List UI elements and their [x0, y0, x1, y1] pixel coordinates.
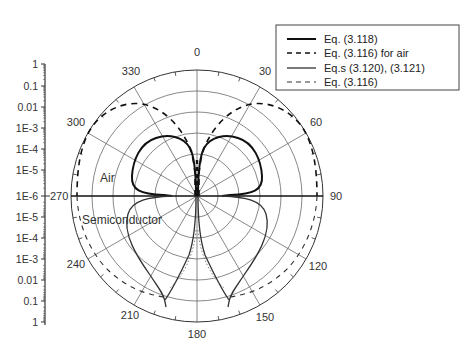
radial-tick-label: 1E-4 [16, 232, 38, 244]
angle-label-270: 270 [50, 190, 68, 202]
angle-label-180: 180 [188, 328, 206, 340]
legend-entry-eq3118: Eq. (3.118) [324, 33, 378, 45]
polar-chart: 1 0.1 0.01 1E-3 1E-4 1E-5 1E-6 1E-5 1E-4… [0, 0, 461, 355]
radial-tick-label: 1 [32, 58, 38, 70]
legend: Eq. (3.118) Eq. (3.116) for air Eq.s (3.… [276, 25, 459, 90]
series-eq3116 [230, 196, 317, 297]
radial-tick-label: 1E-5 [16, 211, 38, 223]
legend-entry-eq3116: Eq. (3.116) [324, 76, 378, 88]
angle-label-150: 150 [256, 311, 274, 323]
angle-label-60: 60 [310, 116, 322, 128]
angle-label-210: 210 [121, 309, 139, 321]
region-label-semiconductor: Semiconductor [82, 213, 162, 227]
radial-tick-label: 1E-5 [16, 164, 38, 176]
angle-label-240: 240 [67, 258, 85, 270]
legend-entry-eq3120-3121: Eq.s (3.120), (3.121) [324, 62, 425, 74]
angle-label-300: 300 [67, 116, 85, 128]
angle-label-90: 90 [330, 190, 342, 202]
radial-tick-label: 1E-4 [16, 143, 38, 155]
radial-tick-label: 1 [32, 316, 38, 328]
radial-tick-label: 1E-3 [16, 122, 38, 134]
radial-tick-label: 0.1 [23, 295, 38, 307]
angle-label-30: 30 [259, 65, 271, 77]
angle-label-0: 0 [194, 46, 200, 58]
radial-tick-label: 0.01 [18, 101, 39, 113]
radial-tick-label: 0.01 [18, 274, 39, 286]
legend-entry-eq3116-air: Eq. (3.116) for air [324, 47, 409, 59]
series-eq3120-3121 [198, 196, 267, 307]
radial-tick-label: 1E-3 [16, 253, 38, 265]
series-eq3116-air [199, 104, 317, 196]
radial-tick-label: 1E-6 [16, 190, 38, 202]
angle-label-120: 120 [309, 260, 327, 272]
radial-tick-label: 0.1 [23, 80, 38, 92]
region-label-air: Air [100, 171, 115, 185]
angle-label-330: 330 [122, 65, 140, 77]
radial-scale-axis: 1 0.1 0.01 1E-3 1E-4 1E-5 1E-6 1E-5 1E-4… [16, 58, 50, 328]
